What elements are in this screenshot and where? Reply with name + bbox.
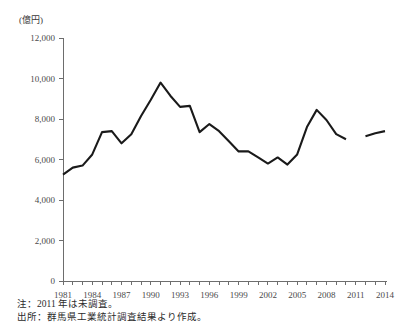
x-tick-label: 1999 [230,290,249,300]
data-series-group [63,83,385,175]
y-tick-label: 0 [51,276,56,286]
x-tick-label: 2008 [317,290,336,300]
x-tick-label: 2011 [347,290,365,300]
y-tick-label: 12,000 [30,33,55,43]
x-tick-label: 2002 [259,290,277,300]
y-tick-label: 6,000 [35,155,56,165]
line-chart: 02,0004,0006,0008,00010,00012,000 198119… [0,0,406,300]
figure-notes: 注：2011 年は未調査。 出所：群馬県工業統計調査結果より作成。 [17,298,207,324]
x-tick-label: 2014 [376,290,395,300]
y-tick-label: 8,000 [35,114,56,124]
chart-page: (億円) 02,0004,0006,0008,00010,00012,000 1… [0,0,406,329]
y-tick-label: 2,000 [35,236,56,246]
y-tick-label: 10,000 [30,74,55,84]
data-series-line [63,83,346,175]
data-series-line [365,131,385,136]
y-axis: 02,0004,0006,0008,00010,00012,000 [30,33,63,286]
note-source: 出所：群馬県工業統計調査結果より作成。 [17,311,207,324]
note-unsurveyed: 注：2011 年は未調査。 [17,298,207,311]
y-tick-label: 4,000 [35,195,56,205]
x-tick-label: 2005 [288,290,307,300]
